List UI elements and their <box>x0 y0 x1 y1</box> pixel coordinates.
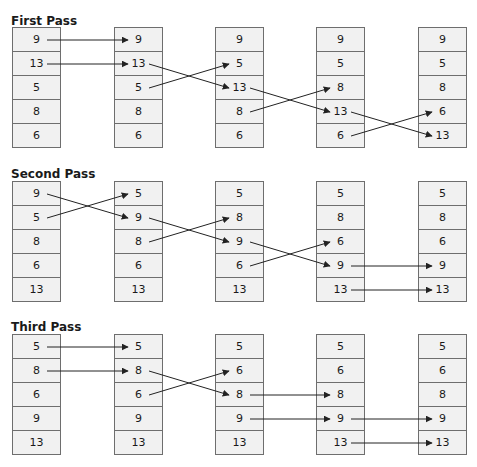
array-state-column: 951386 <box>215 27 264 148</box>
array-cell: 6 <box>216 124 263 147</box>
array-cell: 13 <box>13 278 60 301</box>
array-cell: 6 <box>115 254 162 278</box>
array-state-column: 568913 <box>316 334 365 455</box>
array-cell: 9 <box>216 28 263 52</box>
array-cell: 9 <box>317 28 364 52</box>
array-state-column: 958613 <box>418 27 467 148</box>
array-cell: 5 <box>216 335 263 359</box>
array-cell: 9 <box>419 28 466 52</box>
array-state-column: 913586 <box>12 27 61 148</box>
array-cell: 13 <box>317 100 364 124</box>
array-cell: 9 <box>115 206 162 230</box>
array-state-column: 913586 <box>114 27 163 148</box>
array-cell: 9 <box>115 407 162 431</box>
array-cell: 9 <box>13 182 60 206</box>
array-cell: 5 <box>317 182 364 206</box>
array-state-column: 958613 <box>12 181 61 302</box>
array-state-column: 598613 <box>114 181 163 302</box>
array-cell: 13 <box>216 278 263 301</box>
array-cell: 8 <box>317 76 364 100</box>
array-cell: 8 <box>115 359 162 383</box>
array-cell: 8 <box>115 230 162 254</box>
array-cell: 8 <box>13 230 60 254</box>
array-cell: 6 <box>13 254 60 278</box>
array-cell: 6 <box>317 230 364 254</box>
array-cell: 5 <box>419 52 466 76</box>
array-cell: 5 <box>115 335 162 359</box>
array-cell: 5 <box>216 52 263 76</box>
array-cell: 6 <box>419 100 466 124</box>
array-cell: 9 <box>317 407 364 431</box>
array-cell: 13 <box>419 431 466 454</box>
array-state-column: 589613 <box>215 181 264 302</box>
array-cell: 13 <box>419 124 466 147</box>
array-cell: 13 <box>115 278 162 301</box>
array-cell: 6 <box>419 359 466 383</box>
array-cell: 8 <box>13 100 60 124</box>
array-cell: 13 <box>317 278 364 301</box>
array-cell: 8 <box>216 100 263 124</box>
array-cell: 9 <box>317 254 364 278</box>
array-cell: 5 <box>317 52 364 76</box>
pass-title: First Pass <box>11 14 77 28</box>
array-cell: 9 <box>419 254 466 278</box>
array-cell: 5 <box>216 182 263 206</box>
array-cell: 13 <box>216 76 263 100</box>
array-cell: 13 <box>317 431 364 454</box>
array-cell: 8 <box>317 206 364 230</box>
array-cell: 13 <box>13 52 60 76</box>
array-cell: 8 <box>115 100 162 124</box>
array-cell: 9 <box>13 28 60 52</box>
array-cell: 13 <box>13 431 60 454</box>
array-cell: 8 <box>216 206 263 230</box>
array-cell: 8 <box>419 383 466 407</box>
array-cell: 6 <box>115 124 162 147</box>
array-cell: 13 <box>115 52 162 76</box>
array-cell: 6 <box>317 359 364 383</box>
array-cell: 6 <box>216 254 263 278</box>
array-cell: 8 <box>13 359 60 383</box>
array-cell: 6 <box>317 124 364 147</box>
array-cell: 5 <box>13 206 60 230</box>
array-cell: 5 <box>317 335 364 359</box>
array-cell: 5 <box>13 335 60 359</box>
array-cell: 6 <box>419 230 466 254</box>
array-cell: 6 <box>216 359 263 383</box>
array-cell: 9 <box>419 407 466 431</box>
array-cell: 13 <box>115 431 162 454</box>
array-state-column: 568913 <box>215 334 264 455</box>
array-cell: 5 <box>419 335 466 359</box>
pass-title: Third Pass <box>11 320 81 334</box>
array-cell: 8 <box>216 383 263 407</box>
array-cell: 13 <box>216 431 263 454</box>
pass-title: Second Pass <box>11 167 95 181</box>
array-cell: 9 <box>216 407 263 431</box>
array-cell: 9 <box>216 230 263 254</box>
array-cell: 13 <box>419 278 466 301</box>
array-cell: 6 <box>13 383 60 407</box>
array-state-column: 958136 <box>316 27 365 148</box>
array-cell: 9 <box>115 28 162 52</box>
array-cell: 8 <box>317 383 364 407</box>
array-cell: 8 <box>419 76 466 100</box>
array-cell: 6 <box>115 383 162 407</box>
array-cell: 9 <box>13 407 60 431</box>
array-cell: 8 <box>419 206 466 230</box>
array-cell: 5 <box>115 182 162 206</box>
array-state-column: 568913 <box>418 334 467 455</box>
array-cell: 5 <box>419 182 466 206</box>
array-state-column: 586913 <box>316 181 365 302</box>
array-cell: 5 <box>115 76 162 100</box>
array-cell: 6 <box>13 124 60 147</box>
array-state-column: 586913 <box>114 334 163 455</box>
array-state-column: 586913 <box>12 334 61 455</box>
array-state-column: 586913 <box>418 181 467 302</box>
array-cell: 5 <box>13 76 60 100</box>
